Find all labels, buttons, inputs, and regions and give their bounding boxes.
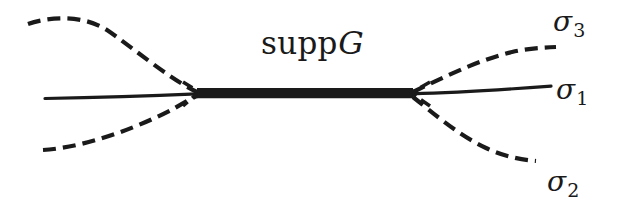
sigma2-label: σ2: [547, 168, 578, 196]
sigma3-symbol: σ: [553, 5, 572, 38]
sigma1-solid-right-path: [412, 86, 551, 94]
sigma1-solid-left-path: [45, 94, 197, 99]
g-variable: G: [338, 24, 364, 62]
sigma2-dashed-right-path: [413, 97, 536, 161]
sigma2-subscript: 2: [567, 179, 579, 201]
sigma1-symbol: σ: [556, 73, 575, 106]
sigma3-subscript: 3: [573, 19, 585, 41]
figure-container: suppG σ3 σ1 σ2: [0, 0, 627, 217]
supp-g-label: suppG: [261, 27, 364, 59]
sigma3-label: σ3: [553, 8, 584, 36]
sigma1-subscript: 1: [576, 87, 588, 109]
supp-text: supp: [261, 25, 338, 61]
sigma3-dashed-right-path: [413, 47, 556, 92]
sigma3-dashed-left-path: [28, 18, 197, 92]
sigma2-symbol: σ: [547, 165, 566, 198]
sigma1-label: σ1: [556, 76, 587, 104]
sigma2-dashed-left-path: [43, 96, 197, 150]
